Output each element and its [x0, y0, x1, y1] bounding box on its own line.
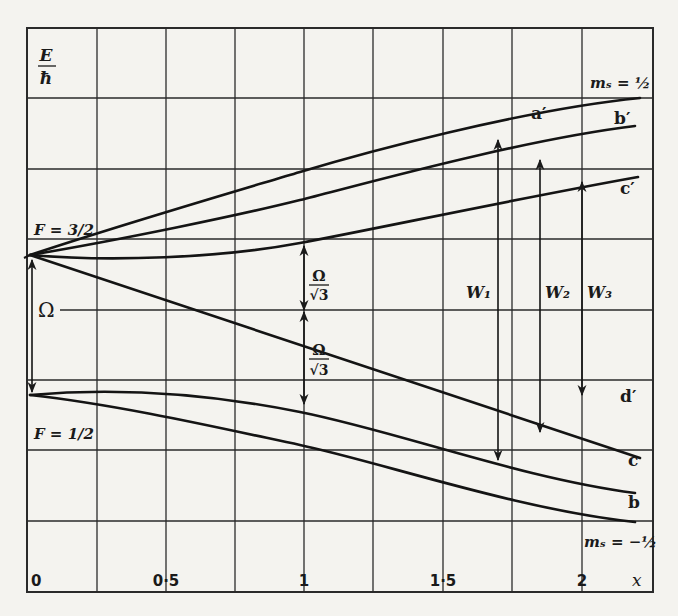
x-tick-1: 1 — [299, 572, 309, 590]
ms-lower-label: mₛ = −½ — [584, 533, 657, 551]
curve-c-prime — [30, 177, 638, 258]
y-label-numerator: E — [39, 45, 54, 65]
x-axis-label: x — [632, 570, 642, 590]
w2-label: W₂ — [545, 283, 570, 302]
omega-upper-num: Ω — [312, 267, 325, 285]
x-tick-2: 2 — [577, 572, 587, 590]
energy-level-diagram: E ħ F = 3/2 F = 1/2 Ω Ω √3 Ω √3 W₁ W₂ W₃… — [0, 0, 678, 616]
omega-label: Ω — [38, 298, 55, 322]
w3-label: W₃ — [587, 283, 612, 302]
labels: E ħ F = 3/2 F = 1/2 Ω Ω √3 Ω √3 W₁ W₂ W₃… — [31, 45, 657, 590]
x-tick-0-5: 0·5 — [153, 572, 180, 590]
omega-lower-num: Ω — [312, 341, 325, 359]
tick-mark — [24, 255, 30, 258]
branch-c-label: c — [628, 450, 638, 470]
x-tick-0: 0 — [31, 572, 41, 590]
branch-b-label: b — [628, 492, 640, 512]
curve-a-prime — [30, 98, 640, 255]
branch-d-prime-label: d′ — [620, 386, 637, 406]
ms-upper-label: mₛ = ½ — [590, 74, 650, 92]
branch-a-prime-label: a′ — [531, 103, 547, 123]
y-label-denominator: ħ — [40, 68, 52, 88]
f-lower-label: F = 1/2 — [33, 425, 94, 443]
branch-c-prime-label: c′ — [620, 178, 635, 198]
curve-b — [30, 395, 635, 522]
w1-label: W₁ — [466, 283, 491, 302]
grid — [27, 28, 653, 592]
omega-upper-den: √3 — [310, 287, 329, 303]
branch-b-prime-label: b′ — [614, 108, 631, 128]
x-tick-1-5: 1·5 — [430, 572, 457, 590]
curve-c — [30, 392, 635, 493]
omega-lower-den: √3 — [310, 362, 329, 378]
f-upper-label: F = 3/2 — [33, 221, 94, 239]
